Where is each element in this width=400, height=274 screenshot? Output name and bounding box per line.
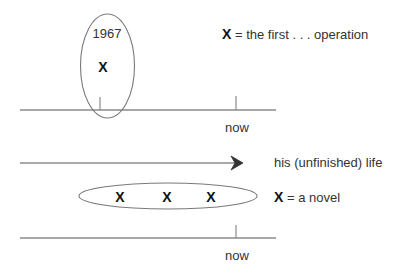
- operation-marker: X: [98, 60, 107, 74]
- novel-marker-2: X: [162, 190, 171, 204]
- now-label-top: now: [225, 121, 249, 134]
- legend-operation-marker: X: [222, 26, 231, 42]
- life-arrow-label: his (unfinished) life: [274, 156, 382, 169]
- legend-operation: X = the first . . . operation: [222, 27, 368, 41]
- legend-novel-marker: X: [274, 189, 283, 205]
- novel-marker-1: X: [115, 190, 124, 204]
- now-label-bottom: now: [225, 249, 249, 262]
- novel-marker-3: X: [206, 190, 215, 204]
- legend-novel: X = a novel: [274, 190, 340, 204]
- legend-operation-text: = the first . . . operation: [235, 27, 368, 42]
- year-label-1967: 1967: [93, 27, 122, 40]
- legend-novel-text: = a novel: [287, 190, 340, 205]
